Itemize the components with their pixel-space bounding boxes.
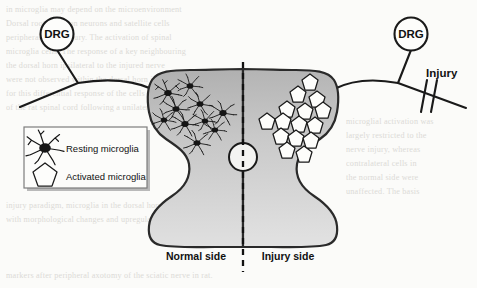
drg-left-label: DRG [44, 28, 70, 40]
legend-label-resting: Resting microglia [66, 143, 140, 154]
legend: Resting microglia Activated microglia [24, 127, 150, 191]
microglia-activation-diagram: in microglia may depend on the microenvi… [0, 0, 477, 288]
svg-text:the dorsal horn ipsilateral to: the dorsal horn ipsilateral to the injur… [6, 61, 165, 70]
svg-text:unaffected. The basis: unaffected. The basis [346, 187, 420, 196]
right-peripheral-nerve [334, 50, 466, 108]
drg-right: DRG [395, 18, 428, 51]
svg-text:microglial activation was: microglial activation was [346, 117, 434, 126]
svg-text:for this differential response: for this differential response of the ce… [6, 89, 167, 98]
legend-label-activated: Activated microglia [66, 171, 146, 182]
svg-text:contralateral cells in: contralateral cells in [346, 159, 417, 168]
svg-text:nerve injury, whereas: nerve injury, whereas [346, 145, 420, 154]
injury-side-label: Injury side [262, 250, 315, 262]
svg-text:markers after peripheral axoto: markers after peripheral axotomy of the … [6, 271, 213, 280]
svg-text:largely restricted to the: largely restricted to the [346, 131, 427, 140]
svg-text:were not observed within the d: were not observed within the dorsal horn… [6, 75, 170, 84]
svg-text:Dorsal root ganglion neurons a: Dorsal root ganglion neurons and satelli… [6, 19, 170, 28]
svg-text:microglia cells. The response: microglia cells. The response of a key n… [6, 47, 186, 56]
normal-side-label: Normal side [166, 250, 226, 262]
svg-text:in microglia may depend on the: in microglia may depend on the microenvi… [6, 5, 182, 14]
injury-transection-marks [421, 80, 437, 112]
injury-label: Injury [426, 67, 458, 79]
svg-text:peripheral nerve injury. The a: peripheral nerve injury. The activation … [6, 33, 172, 42]
drg-right-label: DRG [398, 28, 424, 40]
drg-left: DRG [41, 18, 74, 51]
svg-text:the normal side were: the normal side were [346, 173, 419, 182]
